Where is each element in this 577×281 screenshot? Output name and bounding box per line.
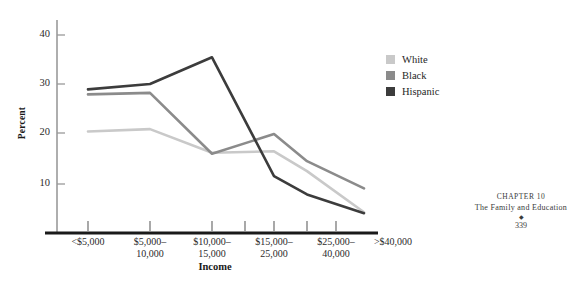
x-tick-label-6: >$40,000 (348, 236, 438, 248)
line-chart: 40 30 20 10 Percent <$5,000 $5,000– 10,0… (0, 0, 420, 281)
series-line-black (88, 93, 364, 188)
page-number: 339 (466, 221, 576, 230)
chart-legend: White Black Hispanic (386, 52, 439, 100)
legend-item-black: Black (386, 68, 439, 83)
legend-swatch-white (386, 55, 395, 64)
legend-item-white: White (386, 52, 439, 67)
y-tick-label-40: 40 (18, 28, 50, 39)
legend-swatch-black (386, 71, 395, 80)
y-tick-label-30: 30 (18, 77, 50, 88)
legend-swatch-hispanic (386, 87, 395, 96)
legend-label-black: Black (402, 70, 427, 81)
diamond-ornament-icon: ◆ (466, 213, 576, 221)
page-footer: CHAPTER 10 The Family and Education ◆ 33… (466, 192, 576, 230)
y-axis-title: Percent (17, 93, 27, 153)
legend-label-white: White (402, 54, 428, 65)
x-axis-title: Income (155, 261, 275, 272)
legend-label-hispanic: Hispanic (402, 86, 439, 97)
footer-chapter-label: CHAPTER 10 (466, 192, 576, 201)
y-tick-label-10: 10 (18, 177, 50, 188)
footer-chapter-title: The Family and Education (466, 203, 576, 212)
series-line-hispanic (88, 57, 364, 213)
legend-item-hispanic: Hispanic (386, 84, 439, 99)
book-page: 40 30 20 10 Percent <$5,000 $5,000– 10,0… (0, 0, 577, 281)
